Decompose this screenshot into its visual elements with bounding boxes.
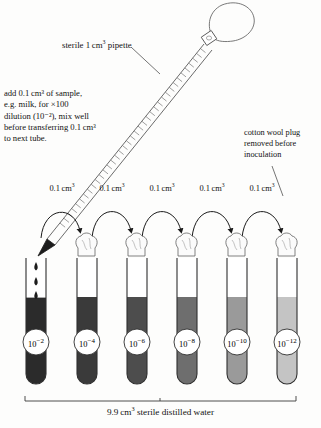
test-tube-6	[276, 233, 297, 384]
transfer-arc-3	[142, 212, 181, 238]
diluent-bracket	[25, 396, 296, 401]
cotton-wool-plug-icon	[176, 233, 197, 256]
tube-2-headspace	[77, 258, 97, 297]
transfer-arc-1	[41, 212, 80, 238]
tube-6-headspace	[277, 258, 297, 297]
serial-dilution-diagram: sterile 1 cm3 pipette add 0.1 cm³ of sam…	[0, 0, 321, 428]
test-tube-4	[176, 233, 197, 384]
transfer-arcs	[41, 212, 281, 238]
tube-4-headspace	[177, 258, 197, 297]
test-tube-group	[26, 233, 297, 384]
transfer-volume-label-3: 0.1 cm3	[139, 183, 185, 194]
note-right-line-3: inoculation	[244, 150, 320, 161]
test-tube-2	[76, 233, 97, 384]
diluent-caption: 9.9 cm3 sterile distilled water	[0, 406, 321, 418]
note-left-line-5: to next tube.	[4, 133, 128, 144]
pipette-label: sterile 1 cm3 pipette	[62, 40, 132, 52]
test-tube-1	[26, 258, 46, 384]
note-left-line-4: before transferring 0.1 cm³	[4, 122, 128, 133]
cotton-wool-plug-icon	[126, 233, 147, 256]
tube-5-headspace	[227, 258, 247, 297]
transfer-volume-label-1: 0.1 cm3	[39, 183, 85, 194]
cotton-wool-plug-icon	[276, 233, 297, 256]
cotton-wool-plug-note: cotton wool plug removed before inoculat…	[244, 128, 320, 161]
cotton-wool-plug-icon	[76, 233, 97, 256]
note-right-line-2: removed before	[244, 139, 320, 150]
transfer-arc-2	[92, 212, 131, 238]
transfer-volume-label-5: 0.1 cm3	[239, 183, 285, 194]
note-left-line-3: dilution (10⁻²), mix well	[4, 111, 128, 122]
tube-3-headspace	[127, 258, 147, 297]
note-left-line-1: add 0.1 cm³ of sample,	[4, 88, 128, 99]
note-left-line-2: e.g. milk, for ×100	[4, 99, 128, 110]
dilution-label-discs	[23, 329, 300, 355]
transfer-arc-4	[192, 212, 231, 238]
sample-instruction-note: add 0.1 cm³ of sample, e.g. milk, for ×1…	[4, 88, 128, 145]
transfer-arc-5	[242, 212, 281, 238]
test-tube-3	[126, 233, 147, 384]
cotton-wool-plug-icon	[226, 233, 247, 256]
diagram-canvas	[0, 0, 321, 428]
transfer-volume-label-4: 0.1 cm3	[189, 183, 235, 194]
transfer-volume-label-2: 0.1 cm3	[89, 183, 135, 194]
note-right-line-1: cotton wool plug	[244, 128, 320, 139]
test-tube-5	[226, 233, 247, 384]
